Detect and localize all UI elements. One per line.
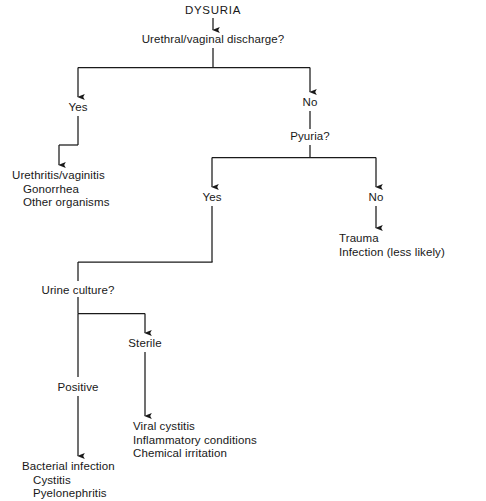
node-question-pyuria: Pyuria? bbox=[290, 130, 330, 144]
dysuria-flowchart: DYSURIA Urethral/vaginal discharge? Yes … bbox=[0, 0, 486, 501]
outcome-urethritis-line-3: Other organisms bbox=[12, 196, 110, 210]
outcome-bacterial-line-3: Pyelonephritis bbox=[22, 487, 115, 501]
node-question-discharge: Urethral/vaginal discharge? bbox=[142, 33, 285, 47]
outcome-viral-line-2: Inflammatory conditions bbox=[133, 434, 257, 448]
outcome-bacterial-line-2: Cystitis bbox=[22, 474, 115, 488]
node-outcome-bacterial: Bacterial infection Cystitis Pyelonephri… bbox=[22, 460, 115, 501]
node-culture-positive-label: Positive bbox=[57, 381, 98, 395]
outcome-trauma-line-2: Infection (less likely) bbox=[339, 246, 445, 260]
node-pyuria-no-label: No bbox=[369, 191, 384, 205]
node-outcome-viral: Viral cystitis Inflammatory conditions C… bbox=[133, 420, 257, 461]
node-outcome-trauma: Trauma Infection (less likely) bbox=[339, 232, 445, 259]
outcome-urethritis-line-1: Urethritis/vaginitis bbox=[12, 169, 110, 183]
outcome-urethritis-line-2: Gonorrhea bbox=[12, 183, 110, 197]
node-discharge-no-label: No bbox=[303, 96, 318, 110]
node-root-dysuria: DYSURIA bbox=[185, 4, 241, 18]
outcome-viral-line-1: Viral cystitis bbox=[133, 420, 257, 434]
outcome-trauma-line-1: Trauma bbox=[339, 232, 445, 246]
node-pyuria-yes-label: Yes bbox=[202, 191, 221, 205]
outcome-viral-line-3: Chemical irritation bbox=[133, 447, 257, 461]
node-discharge-yes-label: Yes bbox=[68, 101, 87, 115]
outcome-bacterial-line-1: Bacterial infection bbox=[22, 460, 115, 474]
node-outcome-urethritis: Urethritis/vaginitis Gonorrhea Other org… bbox=[12, 169, 110, 210]
node-culture-sterile-label: Sterile bbox=[128, 337, 161, 351]
figure-caption-strip bbox=[120, 486, 480, 498]
node-question-urine-culture: Urine culture? bbox=[42, 284, 115, 298]
